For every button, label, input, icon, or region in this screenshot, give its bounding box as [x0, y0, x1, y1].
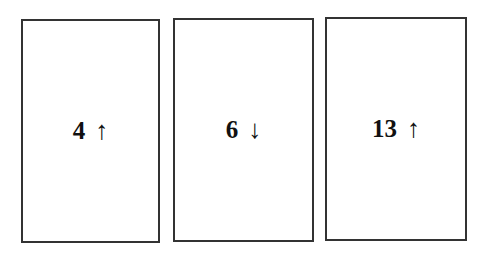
card-label: 6 ↓	[226, 115, 262, 145]
card-3: 13 ↑	[325, 17, 467, 241]
card-1: 4 ↑	[21, 19, 160, 243]
arrow-up-icon: ↑	[95, 116, 108, 146]
card-2: 6 ↓	[173, 18, 314, 242]
card-value: 13	[372, 115, 397, 143]
arrow-down-icon: ↓	[248, 115, 261, 145]
card-value: 4	[73, 117, 86, 145]
card-label: 4 ↑	[73, 116, 109, 146]
card-label: 13 ↑	[372, 114, 420, 144]
arrow-up-icon: ↑	[407, 114, 420, 144]
card-value: 6	[226, 116, 239, 144]
